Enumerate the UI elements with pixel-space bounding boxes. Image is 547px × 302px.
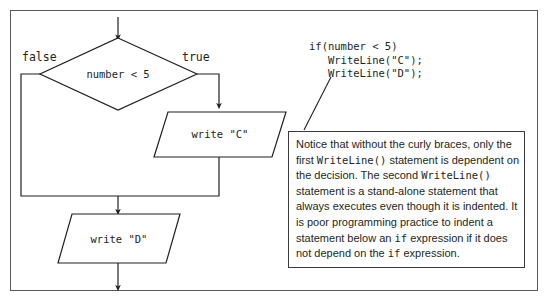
true-branch-path bbox=[197, 74, 219, 106]
code-listing: if(number < 5) WriteLine("C"); WriteLine… bbox=[309, 40, 423, 81]
write-d-label: write "D" bbox=[74, 233, 164, 245]
write-c-exit-path bbox=[118, 157, 219, 196]
figure-canvas: number < 5 false true write "C" write "D… bbox=[0, 0, 547, 302]
decision-label: number < 5 bbox=[73, 68, 163, 80]
note-text-run-8: expression. bbox=[400, 247, 459, 259]
note-inline-code-3: WriteLine() bbox=[421, 169, 491, 181]
note-inline-code-7: if bbox=[388, 247, 401, 259]
note-callout-text: Notice that without the curly braces, on… bbox=[296, 137, 521, 262]
note-inline-code-5: if bbox=[394, 232, 407, 244]
note-callout-box: Notice that without the curly braces, on… bbox=[288, 131, 525, 268]
false-branch-label: false bbox=[22, 50, 57, 64]
callout-leader-line bbox=[304, 77, 331, 130]
write-c-label: write "C" bbox=[175, 128, 265, 140]
true-branch-label: true bbox=[182, 50, 210, 64]
note-inline-code-1: WriteLine() bbox=[317, 154, 387, 166]
